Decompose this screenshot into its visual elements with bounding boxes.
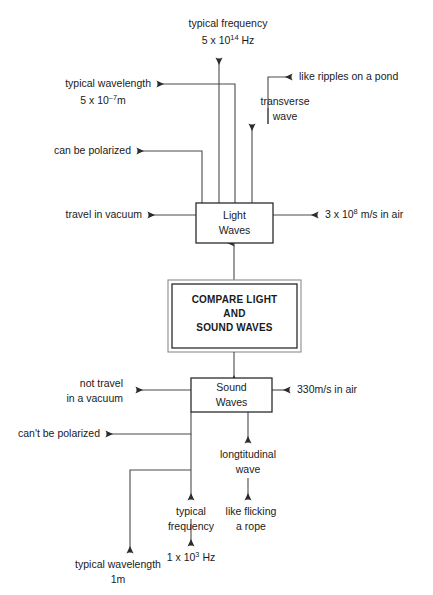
light-waves-label-line1: Light: [223, 209, 246, 221]
light-frequency-label: typical frequency: [189, 17, 269, 29]
sound-vacuum-line1: not travel: [80, 377, 123, 389]
wave-comparison-diagram: Light Waves COMPARE LIGHT AND SOUND WAVE…: [0, 0, 433, 595]
light-analogy-label: like ripples on a pond: [299, 70, 398, 82]
light-wavetype-line1: transverse: [260, 95, 309, 107]
sound-analogy-line2: a rope: [236, 520, 266, 532]
sound-wavetype-line1: longtitudinal: [220, 448, 276, 460]
connector-sound-polarized: [106, 412, 191, 434]
light-wavetype-line2: wave: [272, 110, 298, 122]
light-polarized-label: can be polarized: [54, 144, 131, 156]
sound-wavetype-line2: wave: [235, 463, 261, 475]
connector-light-polarized: [137, 151, 202, 203]
sound-frequency-label-line1: typical: [176, 505, 206, 517]
center-box-line3: SOUND WAVES: [196, 322, 273, 333]
sound-wavelength-value: 1m: [111, 573, 126, 585]
diagram-canvas: Light Waves COMPARE LIGHT AND SOUND WAVE…: [0, 0, 433, 595]
center-box-line2: AND: [223, 308, 245, 319]
light-waves-label-line2: Waves: [219, 224, 251, 236]
light-speed-label: 3 x 108 m/s in air: [325, 207, 404, 220]
sound-frequency-value: 1 x 103 Hz: [167, 550, 215, 563]
sound-waves-label-line1: Sound: [216, 381, 247, 393]
sound-polarized-label: can't be polarized: [18, 427, 100, 439]
light-frequency-value: 5 x 1014 Hz: [202, 33, 255, 46]
sound-wavelength-label: typical wavelength: [75, 558, 161, 570]
connector-light-wavelength: [157, 84, 235, 203]
light-wavelength-value: 5 x 10–7m: [80, 93, 126, 106]
sound-frequency-label-line2: frequency: [168, 520, 215, 532]
sound-analogy-line1: like flicking: [226, 505, 277, 517]
center-box-line1: COMPARE LIGHT: [192, 294, 278, 305]
sound-waves-label-line2: Waves: [216, 396, 248, 408]
sound-speed-label: 330m/s in air: [297, 383, 358, 395]
light-wavelength-label: typical wavelength: [65, 77, 151, 89]
light-vacuum-label: travel in vacuum: [66, 208, 143, 220]
sound-vacuum-line2: in a vacuum: [66, 392, 123, 404]
